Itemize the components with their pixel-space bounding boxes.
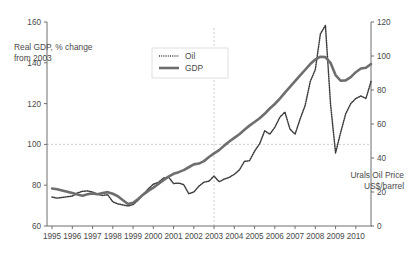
y-axis-left-title-line1: Real GDP, % change [14,42,93,52]
x-axis-tick-label: 2001 [164,232,183,241]
x-axis-tick-label: 2005 [245,232,264,241]
dual-axis-line-chart: 6080100120140160020406080100120199519961… [0,0,412,254]
series-line-gdp [52,57,371,204]
x-axis-tick-label: 1996 [63,232,82,241]
y-axis-right-tick-label: 60 [377,120,387,129]
y-axis-right-tick-label: 100 [377,52,391,61]
x-axis-tick-label: 2010 [347,232,366,241]
x-axis-tick-label: 2007 [286,232,305,241]
y-axis-right-tick-label: 40 [377,154,387,163]
x-axis-tick-label: 1998 [104,232,123,241]
x-axis-tick-label: 1997 [83,232,102,241]
y-axis-right-tick-label: 120 [377,18,391,27]
x-axis-tick-label: 2008 [306,232,325,241]
y-axis-left-tick-label: 80 [32,181,42,190]
y-axis-left-tick-label: 120 [27,100,41,109]
x-axis-tick-label: 2006 [266,232,285,241]
y-axis-left-tick-label: 160 [27,18,41,27]
y-axis-right-tick-label: 80 [377,86,387,95]
x-axis-tick-label: 2000 [144,232,163,241]
legend-label-gdp: GDP [185,63,204,73]
y-axis-left-title-line2: from 2003 [14,53,52,63]
chart-container: 6080100120140160020406080100120199519961… [0,0,412,254]
legend-label-oil: Oil [185,51,195,61]
y-axis-right-title-line2: US$/barrel [364,181,404,191]
x-axis-tick-label: 2009 [326,232,345,241]
y-axis-right-title-line1: Urals Oil Price [350,170,404,180]
y-axis-left-tick-label: 60 [32,222,42,231]
x-axis-tick-label: 2002 [185,232,204,241]
x-axis-tick-label: 1995 [43,232,62,241]
y-axis-left-tick-label: 100 [27,140,41,149]
x-axis-tick-label: 2004 [225,232,244,241]
x-axis-tick-label: 1999 [124,232,143,241]
y-axis-right-tick-label: 0 [377,222,382,231]
figure-caption [0,245,412,254]
x-axis-tick-label: 2003 [205,232,224,241]
